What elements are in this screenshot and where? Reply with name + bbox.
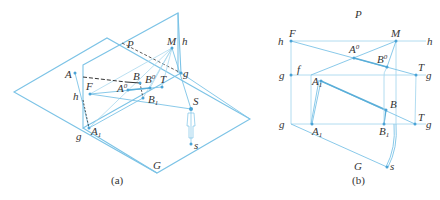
- label-b1: B1: [148, 93, 158, 107]
- label-g: g: [183, 67, 189, 79]
- label-t-lower: T: [418, 111, 425, 123]
- label-s-lower: s: [194, 139, 198, 151]
- label-h-right: h: [427, 35, 433, 47]
- label-b: B: [133, 70, 140, 82]
- label-a1: A1: [90, 125, 101, 139]
- line-a-b-thick: [321, 81, 386, 110]
- label-a0: A0: [348, 43, 360, 55]
- label-a: A: [64, 68, 72, 80]
- label-p: P: [354, 8, 362, 20]
- label-b: B: [390, 98, 397, 110]
- label-f: F: [85, 80, 93, 92]
- label-f-lower: f: [297, 63, 302, 75]
- label-g-left: g: [76, 130, 82, 142]
- label-s: s: [390, 160, 394, 172]
- line-g-right: [181, 73, 250, 119]
- label-g-lower-right: g: [426, 118, 432, 130]
- caption-b: (b): [352, 174, 365, 187]
- caption-a: (a): [111, 174, 124, 187]
- label-a1-upper: A1: [311, 75, 322, 89]
- figure-b: P h F M h A0 B0 g f T g A1 B g A1 B1 T g…: [278, 8, 433, 187]
- label-m: M: [390, 27, 401, 39]
- label-a1: A1: [311, 125, 322, 139]
- label-s-upper: S: [193, 95, 199, 107]
- label-h-left: h: [278, 35, 284, 47]
- label-t: T: [160, 73, 167, 85]
- line-g-s: [291, 124, 387, 167]
- label-g-upper-right: g: [426, 69, 432, 81]
- label-b1: B1: [379, 125, 389, 139]
- perspective-diagram: P M h g A F A0 B B0 T h B1 S A1 g s G (a…: [0, 0, 440, 200]
- label-f-upper: F: [288, 27, 296, 39]
- label-m: M: [166, 35, 177, 47]
- label-h-left: h: [73, 90, 79, 102]
- vertical-t: [415, 75, 416, 124]
- label-h: h: [182, 35, 188, 47]
- label-t-upper: T: [418, 61, 425, 73]
- label-ground-g: G: [153, 159, 161, 171]
- figure-a: P M h g A F A0 B B0 T h B1 S A1 g s G (a…: [14, 13, 250, 187]
- label-ground-g: G: [354, 160, 362, 172]
- label-b0: B0: [377, 53, 388, 65]
- line-m-b0: [387, 41, 396, 67]
- label-g-upper-left: g: [279, 69, 285, 81]
- label-g-lower-left: g: [279, 118, 285, 130]
- points-b: [290, 40, 418, 169]
- label-p: P: [126, 38, 134, 50]
